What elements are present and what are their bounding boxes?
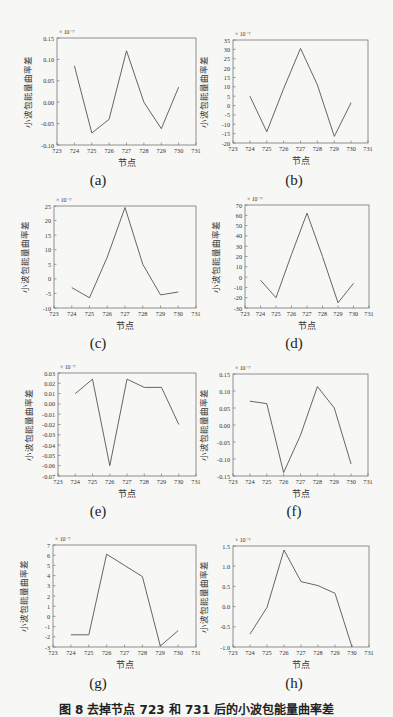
y-tick-label: -15	[222, 130, 230, 137]
x-axis-label: 节点	[292, 156, 310, 166]
y-tick-label: 1	[47, 603, 50, 610]
x-tick-label: 727	[296, 145, 305, 152]
x-tick-label: 728	[313, 649, 322, 656]
plot-frame	[53, 545, 196, 647]
y-tick-label: 0.00	[43, 99, 54, 106]
subplot-h: 1.51.00.50.0-0.5-1.072372472572672772872…	[196, 533, 392, 711]
y-tick-label: -0.05	[41, 120, 54, 127]
subplot-a: 0.150.100.050.00-0.05-0.1072372472572672…	[0, 0, 196, 178]
y-tick-label: 2	[47, 593, 50, 600]
data-line	[250, 48, 351, 136]
y-tick-label: 50	[236, 222, 242, 229]
x-tick-label: 725	[271, 310, 280, 317]
x-tick-label: 724	[245, 649, 254, 656]
subplot-c: 2520151050-5-107237247257267277287297307…	[0, 180, 196, 358]
y-tick-label: 3	[47, 582, 50, 589]
y-tick-label: 0.05	[43, 77, 54, 84]
x-tick-label: 724	[71, 478, 80, 485]
x-tick-label: 727	[122, 478, 131, 485]
y-tick-label: -5	[225, 111, 230, 118]
x-tick-label: 729	[157, 478, 166, 485]
x-tick-label: 729	[156, 649, 165, 656]
y-tick-label: 0.10	[43, 56, 54, 63]
axis-exponent-label: × 10⁻⁷	[55, 536, 71, 542]
axis-exponent-label: × 10⁻⁷	[247, 196, 263, 202]
y-tick-label: 40	[236, 232, 242, 239]
y-tick-label: -20	[234, 294, 242, 301]
y-tick-label: -0.5	[220, 623, 230, 630]
data-line	[75, 379, 179, 466]
plot-frame	[58, 373, 196, 476]
data-line	[72, 208, 179, 298]
plot-frame	[233, 546, 369, 647]
x-tick-label: 727	[122, 147, 131, 154]
x-tick-label: 726	[287, 310, 296, 317]
y-tick-label: 0	[48, 275, 51, 282]
x-tick-label: 726	[105, 478, 114, 485]
y-tick-label: 25	[224, 55, 230, 62]
subplot-b: 35302520151050-5-10-15-20723724725726727…	[196, 0, 392, 178]
subplot-label-f: (f)	[196, 503, 392, 520]
x-tick-label: 723	[228, 145, 237, 152]
x-tick-label: 726	[279, 478, 288, 485]
y-tick-label: 60	[236, 212, 242, 219]
y-tick-label: -0.03	[42, 431, 55, 438]
y-axis-label: 小波包能量曲率差	[19, 560, 29, 632]
y-axis-label: 小波包能量曲率差	[20, 221, 30, 293]
y-tick-label: 0.05	[219, 405, 230, 412]
x-tick-label: 724	[66, 649, 75, 656]
y-axis-label: 小波包能量曲率差	[211, 221, 221, 293]
y-axis-label: 小波包能量曲率差	[199, 56, 209, 128]
x-tick-label: 730	[346, 145, 355, 152]
x-tick-label: 728	[139, 147, 148, 154]
x-tick-label: 730	[349, 310, 358, 317]
y-tick-label: 5	[48, 261, 51, 268]
x-tick-label: 727	[302, 310, 311, 317]
y-tick-label: -10	[234, 284, 242, 291]
x-tick-label: 730	[173, 649, 182, 656]
x-tick-label: 725	[262, 145, 271, 152]
y-axis-label: 小波包能量曲率差	[199, 389, 209, 461]
y-tick-label: 5	[227, 93, 230, 100]
y-tick-label: 0.00	[219, 422, 230, 429]
subplot-d: 706050403020100-10-20-307237247257267277…	[196, 180, 392, 358]
y-tick-label: 0	[47, 613, 50, 620]
chart-b: 35302520151050-5-10-15-20723724725726727…	[196, 0, 392, 178]
y-tick-label: 10	[236, 263, 242, 270]
x-tick-label: 723	[48, 649, 57, 656]
y-tick-label: 10	[224, 83, 230, 90]
y-tick-label: 20	[236, 253, 242, 260]
y-tick-label: 0.01	[44, 390, 55, 397]
x-tick-label: 725	[84, 649, 93, 656]
x-tick-label: 726	[102, 649, 111, 656]
y-tick-label: 25	[45, 203, 51, 210]
axis-exponent-label: × 10⁻⁷	[60, 364, 76, 370]
x-tick-label: 729	[156, 310, 165, 317]
x-tick-label: 728	[313, 478, 322, 485]
y-tick-label: 0.0	[222, 603, 230, 610]
y-tick-label: 7	[47, 542, 50, 549]
axis-exponent-label: × 10⁻⁷	[235, 537, 251, 543]
x-tick-label: 725	[87, 147, 96, 154]
chart-d: 706050403020100-10-20-307237247257267277…	[196, 180, 392, 358]
x-tick-label: 725	[85, 310, 94, 317]
x-tick-label: 728	[138, 649, 147, 656]
x-axis-label: 节点	[116, 660, 134, 670]
y-axis-label: 小波包能量曲率差	[199, 561, 209, 633]
x-tick-label: 723	[53, 478, 62, 485]
data-line	[74, 51, 178, 133]
x-axis-label: 节点	[116, 321, 134, 331]
x-tick-label: 723	[228, 649, 237, 656]
x-tick-label: 723	[52, 147, 61, 154]
x-tick-label: 724	[245, 145, 254, 152]
x-tick-label: 728	[140, 478, 149, 485]
y-tick-label: 0	[239, 274, 242, 281]
x-tick-label: 727	[120, 649, 129, 656]
y-tick-label: -0.06	[42, 462, 55, 469]
subplot-label-h: (h)	[196, 675, 392, 692]
data-line	[250, 387, 351, 473]
y-tick-label: 5	[47, 562, 50, 569]
y-tick-label: -10	[222, 121, 230, 128]
y-tick-label: 0.15	[219, 371, 230, 378]
subplot-g: 76543210-1-2-372372472572672772872973073…	[0, 533, 196, 711]
